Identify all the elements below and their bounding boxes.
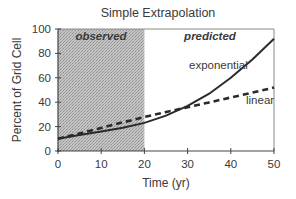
svg-text:10: 10 — [95, 158, 108, 170]
observed-label: observed — [75, 30, 127, 42]
svg-text:20: 20 — [138, 158, 151, 170]
predicted-label: predicted — [183, 30, 237, 42]
svg-text:0: 0 — [55, 158, 61, 170]
svg-text:40: 40 — [38, 96, 51, 108]
y-tick-labels: 0 20 40 60 80 100 — [32, 23, 51, 157]
observed-region — [58, 29, 144, 151]
svg-text:80: 80 — [38, 47, 51, 59]
svg-text:60: 60 — [38, 72, 51, 84]
x-tick-labels: 0 10 20 30 40 50 — [55, 158, 281, 170]
svg-text:0: 0 — [45, 145, 51, 157]
svg-text:50: 50 — [268, 158, 281, 170]
svg-text:20: 20 — [38, 121, 51, 133]
exponential-label: exponential — [189, 59, 248, 71]
svg-text:40: 40 — [224, 158, 237, 170]
svg-text:100: 100 — [32, 23, 51, 35]
linear-label: linear — [246, 94, 274, 106]
chart-plot: 0 20 40 60 80 100 0 10 20 30 40 50 obser… — [0, 0, 296, 199]
svg-text:30: 30 — [181, 158, 194, 170]
